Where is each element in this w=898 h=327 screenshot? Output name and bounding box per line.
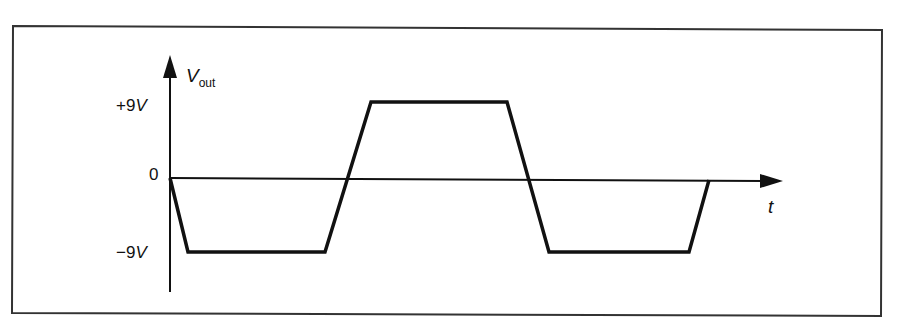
x-axis-arrow-icon <box>760 174 783 188</box>
tick-negative-unit: V <box>135 243 146 262</box>
x-axis <box>170 178 765 181</box>
y-axis-label: Vout <box>186 66 215 85</box>
x-axis-label: t <box>768 197 773 216</box>
tick-label-negative: −9V <box>116 244 147 261</box>
tick-positive-unit: V <box>135 96 146 115</box>
tick-label-positive: +9V <box>116 97 147 114</box>
tick-zero-value: 0 <box>149 165 158 184</box>
tick-label-zero: 0 <box>149 166 158 183</box>
waveform-diagram <box>0 0 898 327</box>
x-axis-label-text: t <box>768 196 773 217</box>
diagram-frame <box>12 26 882 316</box>
output-waveform <box>170 102 709 252</box>
y-axis-label-sub: out <box>199 76 216 90</box>
tick-negative-value: −9 <box>116 243 135 262</box>
y-axis-label-main: V <box>186 65 199 86</box>
tick-positive-value: +9 <box>116 96 135 115</box>
y-axis-arrow-icon <box>163 55 177 78</box>
